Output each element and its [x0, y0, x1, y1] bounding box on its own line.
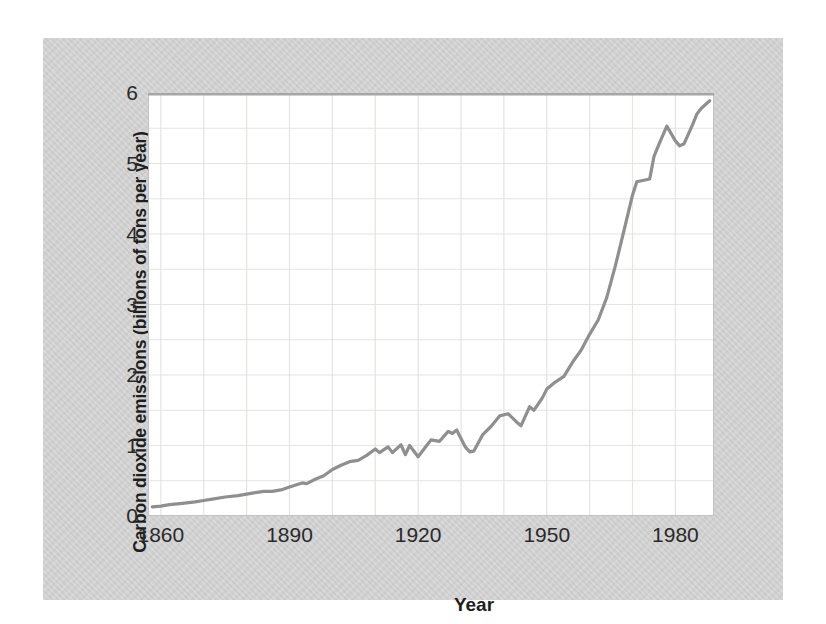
x-tick-label: 1980 [635, 524, 715, 546]
y-tick-label: 1 [94, 435, 138, 457]
x-tick-label: 1890 [250, 524, 330, 546]
y-tick-label: 5 [94, 153, 138, 175]
y-tick-label: 4 [94, 223, 138, 245]
y-tick-label: 6 [94, 82, 138, 104]
y-tick-label: 3 [94, 294, 138, 316]
y-tick-label: 2 [94, 364, 138, 386]
x-tick-label: 1950 [507, 524, 587, 546]
x-tick-label: 1860 [121, 524, 201, 546]
page-background: Carbon dioxide emissions (billions of to… [0, 0, 826, 624]
chart-svg [148, 93, 714, 516]
x-axis-title: Year [191, 594, 757, 616]
plot-area [148, 93, 714, 516]
x-tick-label: 1920 [378, 524, 458, 546]
